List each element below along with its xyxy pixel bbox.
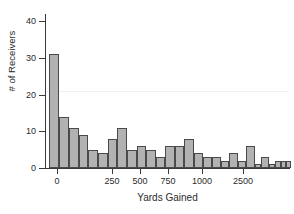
histogram-bar [212,157,221,168]
histogram-bar [229,153,238,168]
histogram-bar [127,150,137,168]
histogram-bar [156,157,165,168]
x-tick-label-0: 0 [37,176,77,186]
histogram-bar [221,161,229,168]
x-tick-1000 [202,169,203,174]
y-tick-label-0: 0 [0,164,36,173]
x-tick-250 [112,169,113,174]
histogram-bar [184,139,194,168]
y-tick-label-10: 10 [0,127,36,136]
histogram-bar [98,153,108,168]
histogram-bar [49,54,59,168]
y-tick-30 [39,58,45,59]
y-tick-label-20: 20 [0,91,36,100]
histogram-figure: 010203040 025050075010002500 Yards Gaine… [0,0,294,214]
y-tick-20 [39,95,45,96]
y-tick-0 [39,168,45,169]
histogram-bar [286,161,291,168]
x-tick-500 [140,169,141,174]
y-tick-40 [39,21,45,22]
y-axis-title: # of Receivers [7,5,17,117]
x-tick-label-1000: 1000 [182,176,222,186]
y-tick-10 [39,131,45,132]
histogram-bar [108,139,117,168]
histogram-bar [165,146,175,168]
histogram-bar [238,161,246,168]
histogram-bar [175,146,184,168]
x-tick-0 [57,169,58,174]
histogram-bar [194,153,203,168]
x-tick-750 [168,169,169,174]
plot-area [46,14,290,168]
histogram-bar [261,157,269,168]
x-axis-title: Yards Gained [45,192,290,203]
histogram-bar [117,128,127,168]
histogram-bar [203,157,212,168]
histogram-bar [137,146,146,168]
histogram-bar [79,135,88,168]
histogram-bar [59,117,69,168]
y-tick-label-40: 40 [0,17,36,26]
x-tick-label-2500: 2500 [223,176,263,186]
x-tick-2500 [243,169,244,174]
histogram-bar [146,150,156,168]
histogram-bar [88,150,98,168]
histogram-bar [246,146,255,168]
histogram-bar [69,128,79,168]
